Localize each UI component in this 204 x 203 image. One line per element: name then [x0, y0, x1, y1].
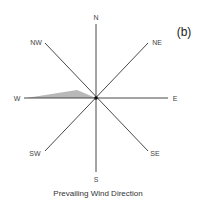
diagram-title: Prevailing Wind Direction: [53, 189, 142, 198]
panel-label: (b): [177, 25, 192, 39]
prevailing-wind-wedge: [26, 90, 96, 98]
label-w: W: [14, 95, 21, 102]
label-n: N: [93, 14, 98, 21]
label-e: E: [173, 95, 178, 102]
wind-rose-diagram: N NE E SE S SW W NW (b) Prevailing Wind …: [0, 0, 204, 203]
label-s: S: [94, 176, 99, 183]
label-ne: NE: [152, 39, 162, 46]
label-se: SE: [150, 150, 160, 157]
center-point: [94, 96, 98, 100]
label-sw: SW: [29, 150, 41, 157]
label-nw: NW: [30, 39, 42, 46]
